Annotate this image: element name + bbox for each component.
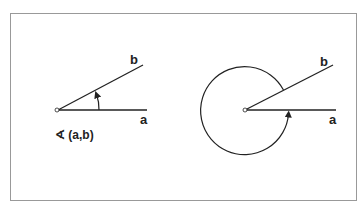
angle-caption: ∢ (a,b) — [55, 128, 94, 142]
angle-arc-arrow — [97, 95, 100, 111]
label-b: b — [130, 52, 138, 67]
ray-b — [245, 65, 333, 110]
label-b: b — [320, 54, 328, 69]
vertex — [243, 108, 247, 112]
label-a: a — [140, 112, 148, 127]
angle-diagram: b a ∢ (a,b) b a — [0, 0, 364, 207]
reflex-angle-figure: b a — [201, 54, 337, 155]
vertex — [55, 108, 59, 112]
label-a: a — [329, 112, 337, 127]
small-angle-figure: b a ∢ (a,b) — [55, 52, 148, 142]
ray-b — [58, 65, 143, 110]
